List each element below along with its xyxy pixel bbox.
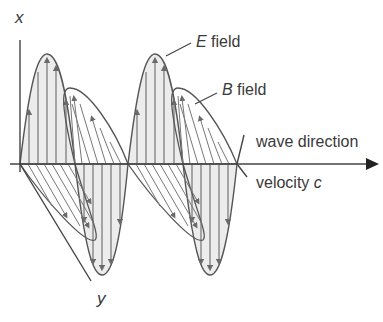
b-field-word: field bbox=[233, 81, 267, 98]
x-axis-label: x bbox=[15, 8, 24, 28]
velocity-word: velocity bbox=[256, 174, 314, 191]
velocity-symbol: c bbox=[314, 174, 322, 191]
b-field-symbol: B bbox=[222, 81, 233, 98]
wave-direction-arrowhead bbox=[366, 158, 379, 170]
y-axis-label: y bbox=[97, 289, 106, 309]
tick-mark bbox=[237, 164, 247, 177]
em-wave-diagram bbox=[0, 0, 383, 322]
e-field-word: field bbox=[207, 33, 241, 50]
e-field-symbol: E bbox=[196, 33, 207, 50]
velocity-label: velocity c bbox=[256, 174, 322, 192]
e-field-label: E field bbox=[196, 33, 240, 51]
wave-direction-label: wave direction bbox=[256, 133, 358, 151]
b-field-label: B field bbox=[222, 81, 266, 99]
tick-mark bbox=[237, 135, 244, 164]
